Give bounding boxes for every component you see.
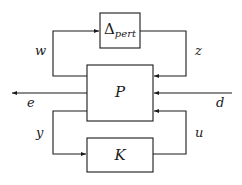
signal-w-label: w: [35, 44, 46, 57]
delta-subscript: pert: [115, 28, 136, 39]
signal-z-line: [140, 31, 186, 76]
plant-p-label: P: [87, 83, 153, 101]
delta-symbol: Δ: [104, 20, 115, 38]
signal-w-line: [53, 31, 99, 76]
signal-z-label: z: [195, 44, 202, 57]
signal-e-label: e: [27, 96, 35, 109]
signal-y-label: y: [36, 126, 43, 139]
signal-y-line: [53, 111, 87, 154]
signal-d-label: d: [216, 96, 224, 109]
controller-k-label: K: [87, 146, 153, 164]
signal-u-label: u: [195, 126, 203, 139]
delta-pert-label: Δpert: [100, 20, 140, 38]
signal-u-line: [153, 111, 186, 154]
